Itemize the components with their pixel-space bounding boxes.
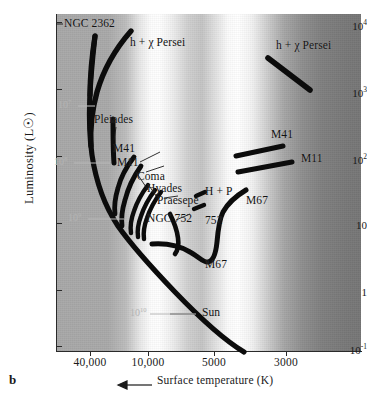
age-label-1e7: 107: [58, 98, 71, 110]
y-tick-label-10: 10: [327, 220, 367, 230]
x-tick-label-3000: 3000: [256, 356, 316, 368]
turnoff-pleiades: [113, 119, 114, 163]
y-tick-label-0.1: 10-1: [327, 342, 367, 355]
y-tick-mark-1000: [56, 89, 62, 90]
label-coma: Coma: [137, 170, 165, 182]
y-tick-mark-10: [56, 223, 62, 224]
label-h-chi-persei-right: h + χ Persei: [276, 39, 331, 51]
label-sun: Sun: [202, 306, 220, 318]
x-tick-label-10000: 10,000: [118, 356, 178, 368]
age-label-1e10: 1010: [130, 306, 147, 318]
label-hyades: Hyades: [147, 182, 182, 194]
label-m67-lower: M67: [205, 258, 227, 270]
x-tick-label-5000: 5000: [184, 356, 244, 368]
y-tick-mark-1: [56, 290, 62, 291]
label-h-chi-persei-left: h + χ Persei: [130, 36, 185, 48]
leader-m41: [140, 152, 160, 162]
age-label-1e9: 109: [68, 211, 81, 223]
y-tick-label-10000: 104: [327, 18, 367, 31]
label-pleiades: Pleiades: [94, 113, 133, 125]
age-label-1e8: 108: [54, 155, 67, 167]
label-ngc752: NGC 752: [147, 212, 192, 224]
y-tick-mark-10000: [56, 22, 62, 23]
y-tick-label-1: 1: [327, 287, 367, 297]
label-752: 752: [205, 214, 223, 226]
x-tick-label-40000: 40,000: [60, 356, 120, 368]
giant-branch-m41: [236, 146, 283, 156]
label-m67-upper: M67: [246, 194, 268, 206]
label-h-p: H + P: [205, 185, 232, 197]
label-ngc2362: NGC 2362: [64, 17, 115, 29]
giant-branch-m11: [238, 162, 292, 172]
hr-diagram-figure: Luminosity (L☉) 104 103 102 10 1 10-1 40…: [0, 0, 367, 398]
y-tick-label-1000: 103: [327, 85, 367, 98]
giant-branch-h-chi-persei: [268, 58, 310, 90]
x-axis-label: Surface temperature (K): [157, 374, 273, 386]
label-m41-right: M41: [271, 128, 293, 140]
label-m41-left: M41: [113, 142, 135, 154]
label-praesepe: Praesepe: [157, 194, 199, 206]
y-tick-mark-0.1: [56, 346, 62, 347]
y-tick-label-100: 102: [327, 152, 367, 165]
label-m11-left: M11: [117, 156, 139, 168]
y-axis-label: Luminosity (L☉): [21, 83, 37, 233]
label-m11-right: M11: [301, 152, 323, 164]
panel-letter: b: [9, 372, 16, 388]
x-axis-direction-arrow: [118, 381, 152, 389]
